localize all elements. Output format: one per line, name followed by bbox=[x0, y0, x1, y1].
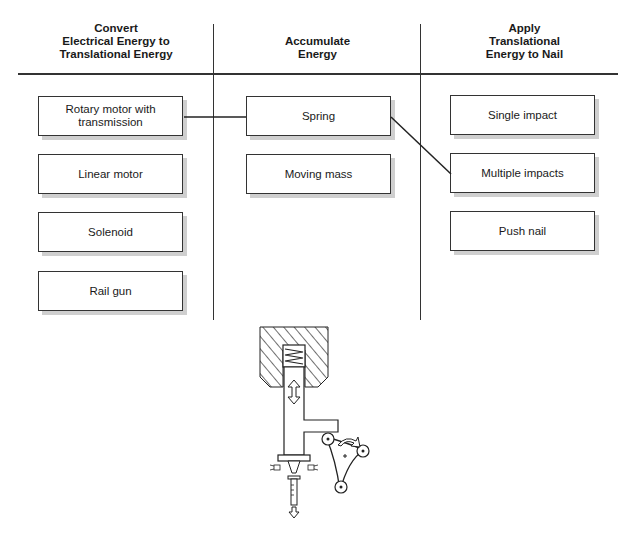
hammer-mechanism-illustration bbox=[250, 325, 400, 525]
